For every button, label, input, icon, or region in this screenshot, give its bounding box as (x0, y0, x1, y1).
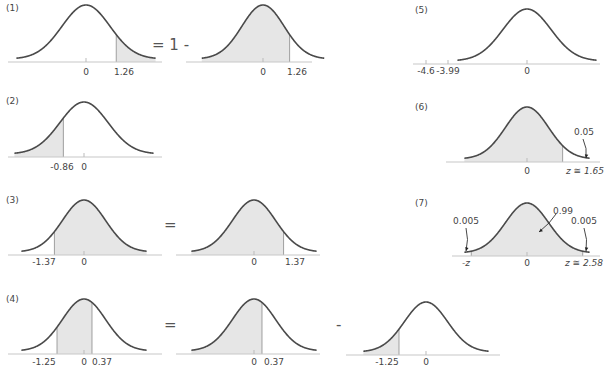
panel-6-tick-z: z ≅ 1.65 (565, 166, 604, 176)
panel-3-operator: = (164, 216, 177, 234)
panel-6-annotation: 0.05 (574, 127, 594, 137)
panel-1-right-tick-0: 0 (260, 67, 266, 77)
panel-3-right-tick-0: 0 (251, 257, 257, 267)
panel-1-operator: = 1 - (152, 36, 189, 54)
panel-3-tag: (3) (6, 195, 19, 205)
panel-6-tick-0: 0 (524, 166, 530, 176)
panel-5-tag: (5) (415, 5, 428, 15)
panel-7-tick-z: z ≅ 2.58 (564, 258, 603, 268)
panel-2-tick-cut: -0.86 (50, 162, 74, 172)
panel-4-tag: (4) (6, 294, 19, 304)
panel-7-tick-neg-z: -z (462, 258, 470, 268)
panel-2-tick-0: 0 (81, 162, 87, 172)
panel-4-left-tick-to: 0.37 (92, 357, 112, 367)
panel-3-left-tick-0: 0 (81, 257, 87, 267)
panel-4-right-tick-0: 0 (423, 357, 429, 367)
panel-4-left-tick-from: -1.25 (32, 357, 55, 367)
panel-7-left-tail-annotation: 0.005 (453, 216, 479, 226)
panel-1-tag: (1) (6, 3, 19, 13)
panel-5-tick-0: 0 (524, 66, 530, 76)
panel-2-tag: (2) (6, 96, 19, 106)
panel-5-tick-b: -3.99 (436, 66, 460, 76)
labels-layer: (1) = 1 - 0 1.26 0 1.26 (2) -0.86 0 (3) … (0, 0, 605, 374)
panel-1-left-tick-0: 0 (83, 67, 89, 77)
panel-4-middle-tick-0: 0 (251, 357, 257, 367)
panel-5-tick-a: -4.6 (417, 66, 435, 76)
panel-3-left-tick-cut: -1.37 (32, 257, 55, 267)
panel-1-right-tick-cut: 1.26 (287, 67, 307, 77)
panel-7-tick-0: 0 (524, 258, 530, 268)
panel-4-middle-tick-cut: 0.37 (264, 357, 284, 367)
panel-4-operator-minus: - (336, 316, 341, 334)
panel-3-right-tick-cut: 1.37 (285, 257, 305, 267)
panel-1-left-tick-cut: 1.26 (114, 67, 134, 77)
panel-4-right-tick-cut: -1.25 (375, 357, 398, 367)
panel-7-tag: (7) (415, 198, 428, 208)
panel-4-left-tick-0: 0 (81, 357, 87, 367)
panel-6-tag: (6) (415, 102, 428, 112)
panel-7-right-tail-annotation: 0.005 (571, 216, 597, 226)
panel-7-center-annotation: 0.99 (553, 206, 573, 216)
panel-4-operator-eq: = (164, 316, 177, 334)
